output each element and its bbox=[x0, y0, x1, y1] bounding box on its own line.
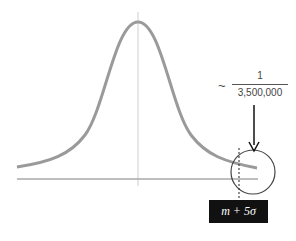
fraction-denominator: 3,500,000 bbox=[232, 87, 288, 98]
probability-annotation: ~ 1 3,500,000 bbox=[218, 70, 290, 102]
tail-highlight-circle bbox=[231, 150, 275, 194]
fraction-bar bbox=[232, 84, 288, 85]
approx-symbol: ~ bbox=[218, 78, 226, 93]
threshold-label: m + 5σ bbox=[209, 200, 268, 223]
fraction-numerator: 1 bbox=[232, 70, 288, 81]
